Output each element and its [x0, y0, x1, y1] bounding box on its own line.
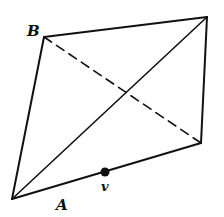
edge-topright-bottomright — [201, 17, 207, 143]
label-v: v — [101, 179, 109, 194]
label-a: A — [54, 196, 68, 214]
diagonal-b-bottomright-dashed — [44, 37, 201, 143]
edge-b-topright — [44, 17, 207, 37]
label-b: B — [26, 22, 40, 40]
quadrilateral-diagram: B A v — [0, 0, 224, 217]
diagonal-a-topright — [12, 17, 207, 199]
point-v — [101, 168, 110, 177]
